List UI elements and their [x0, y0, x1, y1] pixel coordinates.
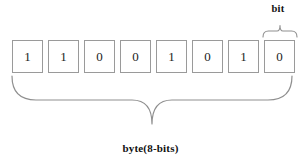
bit-value: 0 [132, 50, 139, 63]
bit-value: 1 [240, 50, 247, 63]
bit-box: 1 [12, 40, 43, 73]
bit-label: bit [258, 3, 298, 14]
bit-brace-icon [260, 22, 300, 38]
bit-box: 0 [192, 40, 223, 73]
bit-box: 0 [120, 40, 151, 73]
bit-box: 0 [84, 40, 115, 73]
bit-value: 1 [24, 50, 31, 63]
bit-box: 0 [264, 40, 295, 73]
byte-brace-icon [0, 74, 301, 126]
bit-byte-diagram: bit 1 1 0 0 1 0 1 0 byte(8 [0, 0, 301, 167]
bit-value: 0 [276, 50, 283, 63]
bit-box: 1 [48, 40, 79, 73]
byte-label: byte(8-bits) [0, 142, 301, 154]
bit-boxes-row: 1 1 0 0 1 0 1 0 [12, 40, 295, 74]
bit-value: 1 [60, 50, 67, 63]
bit-value: 1 [168, 50, 175, 63]
bit-box: 1 [228, 40, 259, 73]
bit-value: 0 [204, 50, 211, 63]
bit-box: 1 [156, 40, 187, 73]
bit-value: 0 [96, 50, 103, 63]
